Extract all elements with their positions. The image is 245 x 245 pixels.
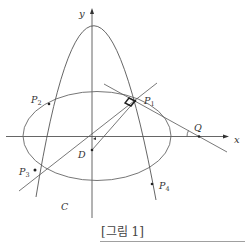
y-axis-label: y <box>78 8 85 19</box>
label-p4: P4 <box>158 180 170 193</box>
point-p3 <box>34 169 37 172</box>
parabola <box>36 26 156 200</box>
label-d: D <box>77 149 86 160</box>
angle-arc-icon <box>187 131 189 137</box>
x-axis-arrow-icon <box>223 135 229 139</box>
point-d <box>91 149 94 152</box>
label-ellipse-c: C <box>61 201 69 212</box>
math-figure: y x P1 P2 P3 P4 Q D C [그림 1] <box>0 0 245 245</box>
y-axis-arrow-icon <box>90 8 94 14</box>
point-p4 <box>151 183 154 186</box>
axes <box>6 8 229 218</box>
point-p2 <box>48 103 51 106</box>
point-q <box>198 135 201 138</box>
label-p2: P2 <box>30 94 42 107</box>
point-p1 <box>134 100 137 103</box>
segment-d-p1 <box>92 101 135 150</box>
label-p1: P1 <box>143 95 155 108</box>
label-p3: P3 <box>18 166 30 179</box>
origin-angle-mark-icon <box>93 137 96 140</box>
label-q: Q <box>194 122 202 133</box>
tangent-line-p1-q <box>104 84 227 152</box>
points <box>34 100 201 186</box>
figure-caption: [그림 1] <box>101 225 144 239</box>
x-axis-label: x <box>234 134 240 145</box>
